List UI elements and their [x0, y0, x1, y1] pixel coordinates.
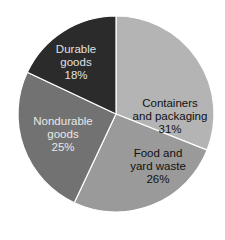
slice-label-line1: Nondurable — [33, 115, 92, 128]
slice-label-label: 26% — [130, 173, 186, 186]
slice-label-line2: yard waste — [130, 160, 186, 173]
slice-label-label: 18% — [56, 69, 96, 82]
slice-label: Containersand packaging31% — [133, 97, 208, 136]
slice-label-line1: Containers — [133, 97, 208, 110]
slice-label-line2: goods — [56, 56, 96, 69]
slice-label-line2: and packaging — [133, 110, 208, 123]
slice-label-line2: goods — [33, 128, 92, 141]
slice-label-line1: Food and — [130, 147, 186, 160]
slice-label-line1: Durable — [56, 43, 96, 56]
slice-label: Durablegoods18% — [56, 43, 96, 82]
slice-label-label: 25% — [33, 141, 92, 154]
slice-label: Nondurablegoods25% — [33, 115, 92, 154]
slice-label-label: 31% — [133, 123, 208, 136]
slice-label: Food andyard waste26% — [130, 147, 186, 186]
